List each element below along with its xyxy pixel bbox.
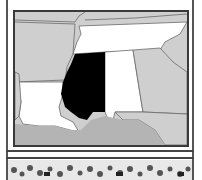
- arkansas-region: [15, 22, 75, 82]
- map-frame: [13, 10, 189, 147]
- floral-pattern: [8, 160, 192, 180]
- state-map: [15, 12, 187, 145]
- frame-divider-top: [6, 150, 194, 152]
- floral-border: [8, 160, 192, 180]
- frame-divider-bottom: [6, 157, 194, 159]
